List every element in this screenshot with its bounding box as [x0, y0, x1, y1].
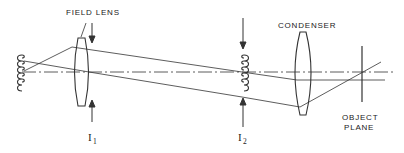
- field-lens-leader: [81, 23, 86, 37]
- image-I1-label: I: [88, 131, 92, 143]
- condenser-lens-icon: [295, 32, 311, 115]
- optical-diagram: FIELD LENS CONDENSER OBJECT PLANE I 1 I …: [0, 0, 404, 153]
- object-plane-label-line1: OBJECT: [342, 113, 378, 122]
- source-filament-icon: [18, 55, 25, 91]
- image-I1-subscript: 1: [93, 137, 97, 146]
- image-I2-label: I: [238, 131, 242, 143]
- field-lens-label: FIELD LENS: [66, 8, 120, 17]
- light-rays: [24, 47, 385, 107]
- condenser-label: CONDENSER: [278, 21, 336, 30]
- image-I2-subscript: 2: [243, 137, 247, 146]
- object-plane-label-line2: PLANE: [344, 123, 374, 132]
